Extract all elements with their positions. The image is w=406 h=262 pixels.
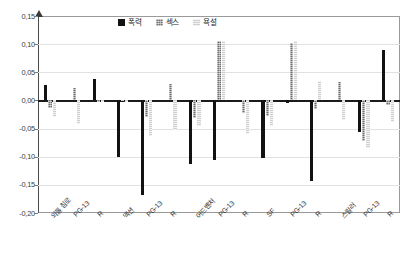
bar-sex	[169, 84, 172, 101]
bar-sex	[193, 100, 196, 118]
bar-profanity	[366, 100, 369, 148]
bar-profanity	[246, 100, 249, 134]
bar-sex	[48, 100, 51, 107]
bar-profanity	[53, 100, 56, 117]
legend-item: 폭력	[118, 19, 142, 27]
bar-profanity	[101, 100, 104, 101]
bar-profanity	[149, 100, 152, 136]
bar-violence	[261, 100, 264, 158]
bars-layer	[38, 16, 400, 213]
bar-sex	[314, 100, 317, 108]
legend-swatch-sex	[156, 19, 163, 26]
legend-item: 욕설	[193, 19, 217, 27]
bar-violence	[44, 85, 47, 101]
bar-violence	[213, 100, 216, 160]
bar-profanity	[125, 100, 128, 101]
bar-profanity	[318, 81, 321, 101]
legend-swatch-violence	[118, 19, 125, 26]
chart-legend: 폭력섹스욕설	[118, 19, 217, 27]
bar-profanity	[77, 100, 80, 124]
legend-label: 폭력	[128, 19, 142, 27]
legend-label: 섹스	[166, 19, 180, 27]
bar-profanity	[270, 100, 273, 126]
bar-sex	[145, 100, 148, 117]
bar-violence	[117, 100, 120, 156]
y-tick-label: -0,20	[0, 209, 35, 218]
bar-sex	[386, 100, 389, 105]
legend-item: 섹스	[156, 19, 180, 27]
y-tick-label: -0,05	[0, 124, 35, 133]
y-tick-label: -0,15	[0, 180, 35, 189]
bar-violence	[382, 50, 385, 101]
bar-sex	[121, 100, 124, 101]
legend-label: 욕설	[203, 19, 217, 27]
bar-sex	[73, 88, 76, 100]
bar-profanity	[342, 100, 345, 119]
bar-sex	[97, 100, 100, 102]
y-tick-label: -0,10	[0, 152, 35, 161]
bar-violence	[358, 100, 361, 132]
bar-profanity	[173, 100, 176, 129]
bar-profanity	[222, 41, 225, 100]
bar-chart: 0,150,100,050,00-0,05-0,10-0,15-0,20 폭력섹…	[0, 0, 406, 262]
bar-sex	[242, 100, 245, 113]
legend-swatch-profanity	[193, 19, 200, 26]
bar-sex	[362, 100, 365, 141]
bar-violence	[310, 100, 313, 180]
y-tick-label: 0,05	[0, 68, 35, 77]
bar-profanity	[294, 41, 297, 100]
x-axis-labels: 외톨 침로PG-13R액션PG-13R어드벤처PG-13RSFPG-13R스릴러…	[38, 213, 400, 262]
bar-violence	[93, 79, 96, 100]
bar-violence	[141, 100, 144, 195]
bar-violence	[189, 100, 192, 164]
y-tick-label: 0,15	[0, 12, 35, 21]
bar-sex	[266, 100, 269, 116]
y-tick-label: 0,10	[0, 40, 35, 49]
bar-sex	[217, 41, 220, 100]
bar-violence	[286, 100, 289, 102]
bar-sex	[290, 43, 293, 100]
bar-profanity	[391, 100, 394, 121]
bar-sex	[338, 82, 341, 100]
bar-profanity	[197, 100, 200, 125]
y-tick-label: 0,00	[0, 96, 35, 105]
